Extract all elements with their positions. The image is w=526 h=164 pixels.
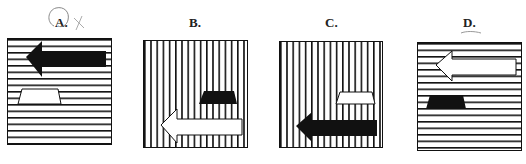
underline-annotation-icon	[460, 30, 482, 36]
option-d-label: D.	[463, 15, 476, 31]
trapezoid-icon	[18, 89, 61, 104]
option-b-label: B.	[189, 15, 201, 31]
trapezoid-icon	[199, 91, 237, 104]
option-c-figure[interactable]	[279, 41, 383, 148]
circle-annotation-icon	[42, 4, 90, 30]
trapezoid-icon	[426, 95, 466, 109]
option-c-label: C.	[325, 15, 338, 31]
trapezoid-icon	[336, 92, 375, 104]
option-d-figure[interactable]	[417, 42, 522, 151]
option-b-figure[interactable]	[143, 40, 248, 148]
option-a-figure[interactable]	[7, 38, 112, 145]
